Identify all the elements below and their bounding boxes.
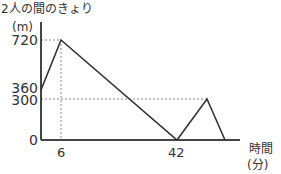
distance-line [41, 40, 225, 140]
x-unit: (分) [247, 159, 268, 171]
chart-title: 2人の間のきょり [1, 3, 93, 15]
y-tick-0: 0 [29, 133, 38, 147]
y-tick-300: 300 [11, 93, 38, 107]
x-tick-6: 6 [57, 146, 65, 159]
y-tick-720: 720 [11, 33, 38, 47]
x-label: 時間 [249, 143, 273, 155]
chart-canvas [0, 0, 281, 174]
x-tick-42: 42 [168, 146, 185, 159]
